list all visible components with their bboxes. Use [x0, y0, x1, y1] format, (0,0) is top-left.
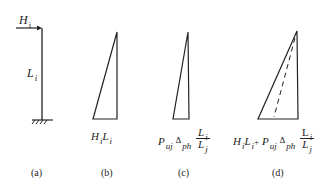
moment-diagram-b — [93, 32, 117, 119]
caption-c: (c) — [178, 168, 189, 178]
delta-symbol: Δ — [279, 135, 285, 145]
formula-c: Puj Δph Li Lj — [158, 131, 210, 154]
num-L: L — [302, 126, 309, 138]
length-subscript: i — [35, 73, 38, 83]
num-sub: i — [205, 132, 208, 142]
moment-diagram-d — [258, 31, 298, 119]
plus-sign: + — [254, 137, 259, 147]
load-symbol: H — [19, 13, 28, 27]
den-sub: j — [309, 144, 312, 154]
den-L: L — [198, 138, 204, 150]
formula-c-P-sub: uj — [166, 141, 173, 151]
formula-c-P: P — [158, 135, 165, 147]
formula-d-L: L — [244, 135, 250, 147]
caption-a: (a) — [31, 168, 42, 178]
formula-b-L: L — [102, 130, 108, 142]
caption-b: (b) — [101, 168, 113, 178]
formula-d-P: P — [262, 135, 269, 147]
formula-d-delta-sub: ph — [286, 141, 295, 151]
load-subscript: i — [29, 20, 32, 30]
formula-b-H: H — [91, 130, 99, 142]
formula-b: HiLi — [91, 131, 112, 142]
diagram-canvas — [0, 0, 332, 189]
dashed-component-line — [274, 38, 295, 117]
fraction-d-denominator: Lj — [300, 139, 314, 150]
formula-d-H: H — [233, 135, 241, 147]
arrowhead-icon — [37, 26, 42, 31]
formula-d: HiLi+ Puj Δph Li Lj — [233, 131, 314, 154]
num-sub: i — [310, 132, 313, 142]
length-label-L: Li — [27, 67, 37, 79]
formula-d-P-sub: uj — [270, 141, 277, 151]
num-L: L — [198, 126, 204, 138]
den-L: L — [302, 138, 308, 150]
fraction-c: Li Lj — [196, 127, 210, 150]
load-label-H: Hi — [19, 14, 31, 26]
formula-b-L-sub: i — [110, 136, 113, 146]
delta-symbol: Δ — [176, 135, 182, 145]
formula-d-L-sub: i — [252, 141, 255, 151]
length-symbol: L — [27, 66, 34, 80]
fraction-d: Li Lj — [300, 127, 314, 150]
caption-d: (d) — [272, 168, 284, 178]
formula-c-delta-sub: ph — [182, 141, 191, 151]
moment-diagram-c — [173, 32, 189, 119]
den-sub: j — [205, 144, 208, 154]
